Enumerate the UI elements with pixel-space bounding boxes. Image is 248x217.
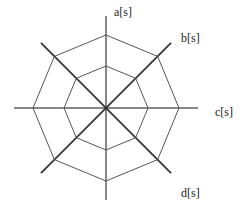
axis-label-d: d[s] — [181, 187, 200, 199]
axis-label-c: c[s] — [215, 106, 233, 118]
radar-chart: a[s] b[s] c[s] d[s] — [0, 0, 248, 217]
axis-label-a: a[s] — [114, 6, 132, 18]
axis-label-b: b[s] — [181, 32, 200, 44]
axis-lines — [14, 16, 198, 200]
radar-chart-canvas — [0, 0, 248, 217]
